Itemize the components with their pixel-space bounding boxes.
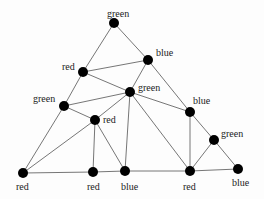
node-label: red xyxy=(62,62,75,72)
node-label: red xyxy=(183,182,196,192)
edge xyxy=(83,23,114,72)
node-label: blue xyxy=(156,48,173,58)
node-label: green xyxy=(138,83,160,93)
node-red xyxy=(88,167,98,177)
node-label: red xyxy=(16,182,29,192)
node-label: blue xyxy=(193,96,210,106)
edge xyxy=(130,92,190,112)
edge xyxy=(64,92,130,106)
edge xyxy=(23,120,95,173)
node-label: red xyxy=(87,182,100,192)
node-label: blue xyxy=(121,182,138,192)
edge xyxy=(130,92,190,171)
edge xyxy=(23,106,64,173)
node-green xyxy=(109,18,119,28)
edge xyxy=(190,169,238,171)
edge xyxy=(190,112,214,140)
edge xyxy=(190,140,214,171)
node-label: red xyxy=(103,115,116,125)
node-label: green xyxy=(33,94,55,104)
edge xyxy=(114,23,148,60)
node-blue xyxy=(185,107,195,117)
edge xyxy=(125,92,130,171)
edge xyxy=(83,72,130,92)
node-label: green xyxy=(107,9,129,19)
node-red xyxy=(90,115,100,125)
edge xyxy=(93,120,95,172)
node-green xyxy=(125,87,135,97)
node-green xyxy=(209,135,219,145)
edge xyxy=(83,60,148,72)
edge xyxy=(214,140,238,169)
edge xyxy=(23,172,93,173)
node-red xyxy=(18,168,28,178)
edge xyxy=(95,120,125,171)
node-blue xyxy=(143,55,153,65)
edge xyxy=(64,72,83,106)
node-red xyxy=(78,67,88,77)
node-green xyxy=(59,101,69,111)
edge xyxy=(64,106,95,120)
node-label: green xyxy=(221,129,243,139)
node-blue xyxy=(120,166,130,176)
node-blue xyxy=(233,164,243,174)
graph-diagram: greenblueredgreengreenredbluegreenredred… xyxy=(0,0,264,199)
node-red xyxy=(185,166,195,176)
node-label: blue xyxy=(232,178,249,188)
